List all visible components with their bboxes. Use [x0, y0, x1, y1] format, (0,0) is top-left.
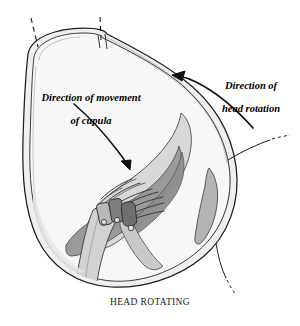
cut-edge-right-lower: [216, 243, 236, 295]
figure-root: Direction of movement of cupula Directio…: [0, 0, 300, 326]
anatomical-diagram: [0, 0, 300, 326]
cut-edge-right-upper: [228, 135, 290, 160]
